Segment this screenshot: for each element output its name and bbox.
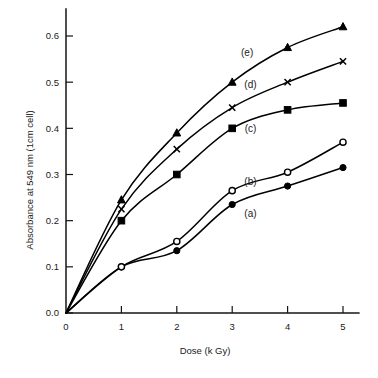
plot-canvas: 0.00.10.20.30.40.50.6012345 (a)(b)(c)(d)… xyxy=(0,0,378,378)
marker-b-5 xyxy=(340,139,346,145)
x-tick-label: 1 xyxy=(119,321,124,332)
absorbance-dose-chart: 0.00.10.20.30.40.50.6012345 (a)(b)(c)(d)… xyxy=(0,0,378,378)
series-label-a: (a) xyxy=(244,208,256,219)
y-tick-label: 0.1 xyxy=(46,261,59,272)
marker-a-4 xyxy=(285,183,291,189)
x-tick-label: 2 xyxy=(174,321,179,332)
marker-d-3 xyxy=(229,104,235,110)
y-tick-label: 0.4 xyxy=(46,123,59,134)
x-tick-label: 5 xyxy=(340,321,345,332)
y-tick-label: 0.2 xyxy=(46,215,59,226)
marker-a-3 xyxy=(229,201,235,207)
series-label-b: (b) xyxy=(244,176,256,187)
marker-d-5 xyxy=(340,58,346,64)
data-markers xyxy=(118,23,347,270)
y-tick-label: 0.6 xyxy=(46,30,59,41)
marker-e-5 xyxy=(339,23,347,30)
marker-a-2 xyxy=(174,248,180,254)
series-annotations: (a)(b)(c)(d)(e) xyxy=(241,47,257,220)
y-tick-label: 0.3 xyxy=(46,169,59,180)
marker-c-2 xyxy=(174,171,181,178)
marker-b-4 xyxy=(285,169,291,175)
x-axis-title: Dose (k Gy) xyxy=(180,345,231,356)
marker-d-4 xyxy=(285,79,291,85)
x-tick-label: 3 xyxy=(230,321,235,332)
y-tick-label: 0.5 xyxy=(46,77,59,88)
series-label-e: (e) xyxy=(241,47,253,58)
marker-e-3 xyxy=(228,78,236,85)
marker-c-4 xyxy=(284,107,291,114)
marker-c-3 xyxy=(229,125,236,132)
marker-c-1 xyxy=(118,217,125,224)
marker-d-2 xyxy=(174,146,180,152)
curve-c xyxy=(66,103,343,313)
curve-d xyxy=(66,61,343,313)
marker-c-5 xyxy=(340,100,347,107)
curve-e xyxy=(66,27,343,313)
marker-b-3 xyxy=(229,188,235,194)
marker-b-2 xyxy=(174,238,180,244)
data-curves xyxy=(66,27,343,313)
x-tick-label: 0 xyxy=(63,321,68,332)
y-axis-title: Absorbance at 549 nm (1cm cell) xyxy=(24,110,35,249)
series-label-c: (c) xyxy=(245,123,257,134)
marker-d-1 xyxy=(118,206,124,212)
y-tick-label: 0.0 xyxy=(46,307,59,318)
marker-b-1 xyxy=(118,264,124,270)
marker-a-5 xyxy=(340,164,346,170)
tick-marks xyxy=(66,36,343,313)
series-label-d: (d) xyxy=(244,79,256,90)
x-tick-label: 4 xyxy=(285,321,290,332)
axes xyxy=(66,8,360,313)
